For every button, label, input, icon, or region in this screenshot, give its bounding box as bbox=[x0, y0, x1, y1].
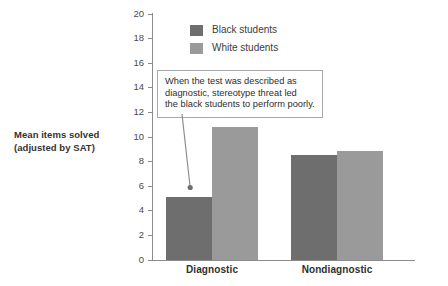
legend-item-black: Black students bbox=[190, 22, 278, 38]
y-axis-tick-label: 20 bbox=[133, 8, 144, 20]
y-axis-tickmark bbox=[148, 161, 152, 162]
annotation-callout: When the test was described as diagnosti… bbox=[157, 70, 323, 118]
y-axis-title-line-2: (adjusted by SAT) bbox=[14, 142, 126, 155]
annotation-line-2: diagnostic, stereotype threat led bbox=[165, 88, 316, 100]
y-axis-title-line-1: Mean items solved bbox=[14, 129, 126, 142]
y-axis-tickmark bbox=[148, 63, 152, 64]
y-axis-tick-label: 14 bbox=[133, 81, 144, 93]
bar-nondiagnostic-white bbox=[337, 151, 383, 260]
bar-diagnostic-black bbox=[166, 197, 212, 260]
bar-chart-figure: Mean items solved (adjusted by SAT) 2018… bbox=[0, 0, 448, 286]
x-axis-line bbox=[152, 260, 415, 261]
annotation-arrow-icon bbox=[150, 112, 210, 198]
annotation-line-1: When the test was described as bbox=[165, 76, 316, 88]
legend-label: Black students bbox=[212, 24, 277, 36]
y-axis-tickmark bbox=[148, 38, 152, 39]
bar-diagnostic-white bbox=[212, 127, 258, 260]
y-axis-tick-label: 16 bbox=[133, 57, 144, 69]
y-axis-tick-label: 18 bbox=[133, 32, 144, 44]
y-axis-tickmark bbox=[148, 112, 152, 113]
y-axis-tickmark bbox=[148, 87, 152, 88]
y-axis-tickmark bbox=[148, 14, 152, 15]
legend-swatch-icon bbox=[190, 25, 203, 36]
y-axis-tick-label: 6 bbox=[139, 180, 144, 192]
legend-swatch-icon bbox=[190, 43, 203, 54]
annotation-callout-text: When the test was described as diagnosti… bbox=[165, 76, 316, 111]
legend-label: White students bbox=[212, 42, 278, 54]
annotation-line-3: the black students to perform poorly. bbox=[165, 99, 316, 111]
y-axis-tickmark bbox=[148, 137, 152, 138]
bar-nondiagnostic-black bbox=[291, 155, 337, 260]
y-axis-tick-label: 2 bbox=[139, 229, 144, 241]
chart-legend: Black studentsWhite students bbox=[190, 22, 278, 58]
y-axis-tickmark bbox=[148, 260, 152, 261]
x-axis-label-nondiagnostic: Nondiagnostic bbox=[267, 264, 407, 275]
y-axis-title: Mean items solved (adjusted by SAT) bbox=[14, 129, 126, 154]
y-axis-tick-label: 4 bbox=[139, 204, 144, 216]
y-axis-tick-label: 8 bbox=[139, 155, 144, 167]
y-axis-tickmark bbox=[148, 210, 152, 211]
y-axis-tickmark bbox=[148, 235, 152, 236]
x-axis-label-diagnostic: Diagnostic bbox=[142, 264, 282, 275]
y-axis-line bbox=[152, 13, 153, 261]
y-axis-tick-label: 10 bbox=[133, 131, 144, 143]
y-axis-tickmark bbox=[148, 186, 152, 187]
y-axis-tick-label: 12 bbox=[133, 106, 144, 118]
legend-item-white: White students bbox=[190, 40, 278, 56]
